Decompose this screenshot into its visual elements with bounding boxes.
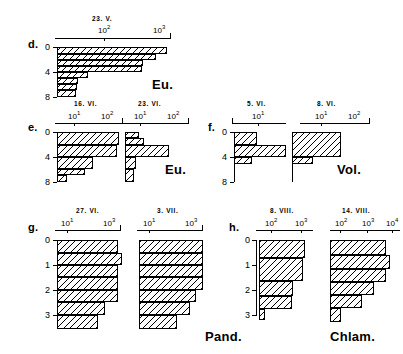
date-label-27-VI: 27. VI. [76,208,99,214]
y-axis-h1 [256,240,257,316]
bar [292,157,313,164]
x-axis-tick-e2-1 [140,123,141,126]
y-tick-h-1 [252,265,256,266]
y-tick-d-8 [53,97,57,98]
tick-label-h1-2: 103 [295,217,307,228]
x-axis-tick-h1-2 [301,230,302,233]
tick-label-h1-1: 102 [265,217,277,228]
bar [57,47,167,54]
date-label-23-V: 23. V. [92,16,112,22]
y-label-e-8: 8 [38,178,50,187]
x-axis-cap-f1-left [232,118,233,124]
date-label-16-VI: 16. VI. [74,101,97,107]
bar [57,253,122,265]
figure-canvas: d. 23. V. 102 103 0 4 8 Eu. e. 16. VI. 2… [0,0,403,354]
taxon-label-eu-e: Eu. [165,163,186,176]
x-axis-tick-h2-1 [340,230,341,233]
x-axis-tick-h1-1 [271,230,272,233]
taxon-label-eu-d: Eu. [152,78,173,91]
y-label-d-0: 0 [38,43,50,52]
tick-label-g1-2: 103 [103,217,115,228]
tick-label-h2-1: 102 [335,217,347,228]
x-axis-tick-g2-1 [149,230,150,233]
bar [125,169,134,182]
bar [57,277,118,290]
bar [330,269,386,282]
bar [330,282,374,295]
y-label-f-0: 0 [215,128,227,137]
taxon-label-vol: Vol. [337,163,361,176]
bar [125,145,169,157]
y-label-h-2: 2 [238,286,250,295]
x-axis-rule-d [55,38,171,39]
bar [234,145,286,157]
bar [57,315,98,329]
bar [139,302,190,315]
bar [292,132,341,157]
x-axis-tick-h2-2 [367,230,368,233]
x-axis-rule-e1 [55,123,123,124]
date-label-23-VI: 23. VI. [138,101,161,107]
x-axis-cap-d [170,33,171,39]
bar [330,295,362,308]
date-label-3-VII: 3. VII. [157,208,178,214]
tick-label-e2-2: 102 [167,110,179,121]
y-tick-h-3 [252,315,256,316]
panel-letter-h: h. [229,222,239,233]
bar [125,157,136,169]
bar [259,309,265,320]
x-axis-rule-g1 [55,230,121,231]
y-label-h-1: 1 [238,261,250,270]
bar [139,277,203,290]
tick-label-f2-1: 101 [315,110,327,121]
bar [234,132,257,145]
bar [57,290,118,302]
bar [330,308,341,322]
bar [57,145,117,157]
bar [57,302,105,315]
y-tick-f-8 [230,182,234,183]
x-axis-rule-g2 [137,230,203,231]
bar [57,157,93,169]
x-axis-rule-f2 [300,123,370,124]
x-axis-rule-h1 [256,230,313,231]
date-label-5-VI: 5. VI. [247,101,266,107]
bar [139,253,203,265]
tick-label-g1-1: 101 [61,217,73,228]
y-tick-h-0 [252,240,256,241]
x-axis-tick-d-1 [104,38,105,41]
x-axis-tick-f2-1 [321,123,322,126]
x-axis-cap-g2 [202,225,203,231]
bar [234,157,252,164]
y-label-d-4: 4 [38,68,50,77]
y-label-g-2: 2 [38,286,50,295]
tick-label-e1-1: 101 [68,110,80,121]
bar [57,132,119,145]
y-tick-h-2 [252,290,256,291]
tick-label-e1-2: 102 [101,110,113,121]
x-axis-rule-e2 [123,123,189,124]
bar [259,281,293,296]
bar [57,175,67,182]
tick-label-f2-2: 102 [348,110,360,121]
tick-label-d-2: 103 [153,24,165,35]
y-label-g-0: 0 [38,236,50,245]
y-label-g-3: 3 [38,311,50,320]
bar [330,255,390,269]
panel-letter-g: g. [28,222,38,233]
x-axis-tick-g1-1 [67,230,68,233]
date-label-8-VI: 8. VI. [317,101,336,107]
tick-label-g2-1: 101 [143,217,155,228]
y-label-d-8: 8 [38,93,50,102]
y-label-f-8: 8 [215,178,227,187]
bar [57,90,76,97]
bar [259,240,305,258]
tick-label-h2-2: 103 [362,217,374,228]
x-axis-cap-g1 [120,225,121,231]
tick-label-f1-1: 101 [252,110,264,121]
bar [259,296,292,309]
bar [139,315,177,329]
panel-letter-d: d. [28,39,38,50]
bar [57,265,118,277]
x-axis-cap-f2 [369,118,370,124]
